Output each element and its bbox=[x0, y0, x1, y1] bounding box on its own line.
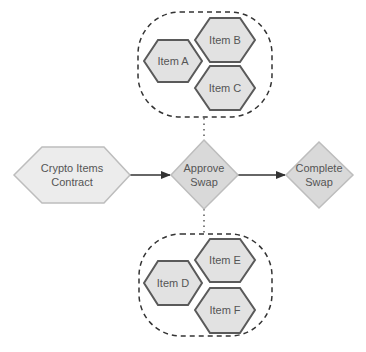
crypto-items-contract-node[interactable]: Crypto Items Contract bbox=[14, 147, 130, 203]
approve-label-line1: Approve bbox=[184, 162, 225, 174]
item-f-node[interactable]: Item F bbox=[195, 288, 255, 333]
item-a-node[interactable]: Item A bbox=[144, 40, 202, 82]
item-c-node[interactable]: Item C bbox=[195, 66, 255, 110]
approve-swap-node[interactable]: Approve Swap bbox=[171, 140, 238, 209]
complete-label-line1: Complete bbox=[295, 162, 342, 174]
item-e-node[interactable]: Item E bbox=[195, 239, 255, 282]
diagram-canvas: Item A Item B Item C Item D Item E Item … bbox=[0, 0, 366, 352]
item-f-label: Item F bbox=[209, 304, 240, 316]
item-d-node[interactable]: Item D bbox=[144, 261, 202, 305]
item-e-label: Item E bbox=[209, 254, 241, 266]
contract-label-line2: Contract bbox=[51, 176, 93, 188]
item-a-label: Item A bbox=[157, 55, 189, 67]
item-d-label: Item D bbox=[157, 277, 189, 289]
item-b-label: Item B bbox=[209, 34, 241, 46]
contract-label-line1: Crypto Items bbox=[41, 162, 104, 174]
approve-label-line2: Swap bbox=[190, 176, 218, 188]
item-b-node[interactable]: Item B bbox=[195, 18, 255, 62]
complete-swap-node[interactable]: Complete Swap bbox=[286, 142, 353, 208]
item-c-label: Item C bbox=[209, 82, 241, 94]
complete-label-line2: Swap bbox=[305, 176, 333, 188]
